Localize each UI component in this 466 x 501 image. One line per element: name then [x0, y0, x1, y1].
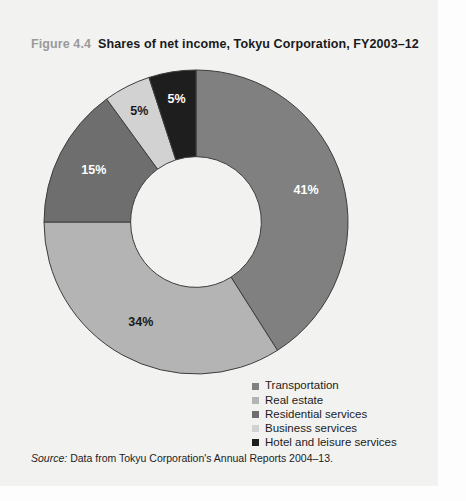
legend-item: Real estate — [252, 393, 397, 407]
donut-chart-svg: 41%34%15%5%5% — [38, 64, 354, 380]
legend-item-label: Transportation — [265, 380, 339, 392]
legend-item-label: Hotel and leisure services — [265, 437, 397, 449]
legend-item: Hotel and leisure services — [252, 436, 397, 450]
page-edge-right — [438, 0, 466, 501]
legend-swatch-icon — [252, 411, 259, 418]
legend-item-label: Residential services — [265, 409, 367, 421]
legend-item-label: Business services — [265, 423, 357, 435]
legend-swatch-icon — [252, 425, 259, 432]
legend-item: Transportation — [252, 379, 397, 393]
slice-value-label: 5% — [167, 92, 185, 106]
source-note: Source:Data from Tokyu Corporation's Ann… — [31, 452, 333, 464]
chart-legend: TransportationReal estateResidential ser… — [252, 379, 397, 450]
page-edge-bottom — [0, 486, 466, 501]
source-text: Data from Tokyu Corporation's Annual Rep… — [70, 452, 333, 464]
source-label: Source: — [31, 452, 67, 464]
legend-swatch-icon — [252, 439, 259, 446]
legend-swatch-icon — [252, 397, 259, 404]
slice-value-label: 5% — [130, 104, 148, 118]
legend-item: Business services — [252, 422, 397, 436]
slice-value-label: 34% — [128, 315, 153, 329]
donut-slice — [44, 222, 277, 374]
legend-item: Residential services — [252, 407, 397, 421]
legend-item-label: Real estate — [265, 395, 323, 407]
legend-swatch-icon — [252, 383, 259, 390]
slice-value-label: 41% — [294, 183, 319, 197]
figure-page: Figure 4.4Shares of net income, Tokyu Co… — [0, 0, 466, 501]
slice-value-label: 15% — [81, 163, 106, 177]
